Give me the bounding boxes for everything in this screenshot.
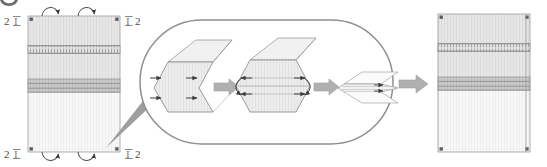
magnified-detail-oval <box>140 20 398 144</box>
panel-lower-face <box>28 92 120 152</box>
clipped-circle-marker <box>0 0 18 6</box>
panel-thin-hatched-band <box>28 46 120 54</box>
figure-root: 2 I I 2 2 I I 2 <box>0 0 547 167</box>
fold-arrows-bottom <box>42 152 94 160</box>
result-transition-arrow <box>399 75 428 93</box>
initial-deployed-panel: 2 I I 2 2 I I 2 <box>4 8 141 161</box>
final-panel-thin-hatched-band <box>438 44 530 52</box>
final-panel-lower-face <box>438 90 530 152</box>
label-top-left: 2 <box>4 15 10 27</box>
final-stowed-panel <box>438 14 530 152</box>
fold-arrows-top <box>42 8 94 16</box>
panel-thick-gray-band <box>28 79 120 92</box>
label-bottom-right: 2 <box>135 148 141 160</box>
label-bottom-left: 2 <box>4 148 10 160</box>
label-top-right: 2 <box>135 15 141 27</box>
final-panel-thick-gray-band <box>438 77 530 90</box>
diagram-canvas: 2 I I 2 2 I I 2 <box>0 0 547 167</box>
